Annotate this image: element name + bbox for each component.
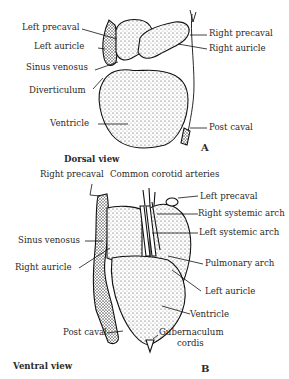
label-b-post-caval: Post caval	[63, 328, 107, 337]
panel-b-letter: B	[201, 364, 209, 374]
panel-a-caption: Dorsal view	[64, 155, 120, 164]
label-b-left-auricle: Left auricle	[205, 287, 255, 296]
label-b-pulmonary-arch: Pulmonary arch	[205, 259, 274, 268]
label-b-right-auricle: Right auricle	[15, 263, 72, 272]
label-a-ventricle: Ventricle	[50, 119, 89, 128]
label-a-left-auricle: Left auricle	[34, 42, 84, 51]
label-b-cordis: cordis	[177, 339, 204, 348]
label-b-common-carotid: Common corotid arteries	[110, 170, 219, 179]
heart-diagram	[0, 0, 289, 379]
label-b-left-systemic-arch: Left systemic arch	[199, 228, 279, 237]
panel-b-caption: Ventral view	[13, 362, 72, 371]
label-a-right-precaval: Right precaval	[209, 29, 273, 38]
label-b-gubernaculum: Gubernaculum	[159, 328, 224, 337]
label-a-sinus-venosus: Sinus venosus	[26, 63, 88, 72]
label-b-right-systemic-arch: Right systemic arch	[198, 209, 285, 218]
dorsal-heart	[99, 10, 196, 148]
label-b-left-precaval: Left precaval	[200, 192, 258, 201]
label-a-post-caval: Post caval	[209, 123, 253, 132]
label-b-sinus-venosus: Sinus venosus	[18, 236, 80, 245]
label-b-ventricle: Ventricle	[190, 310, 229, 319]
label-a-right-auricle: Right auricle	[209, 44, 266, 53]
panel-a-letter: A	[201, 143, 209, 153]
label-a-left-precaval: Left precaval	[22, 23, 80, 32]
label-b-right-precaval: Right precaval	[40, 170, 104, 179]
label-a-diverticulum: Diverticulum	[29, 86, 86, 95]
